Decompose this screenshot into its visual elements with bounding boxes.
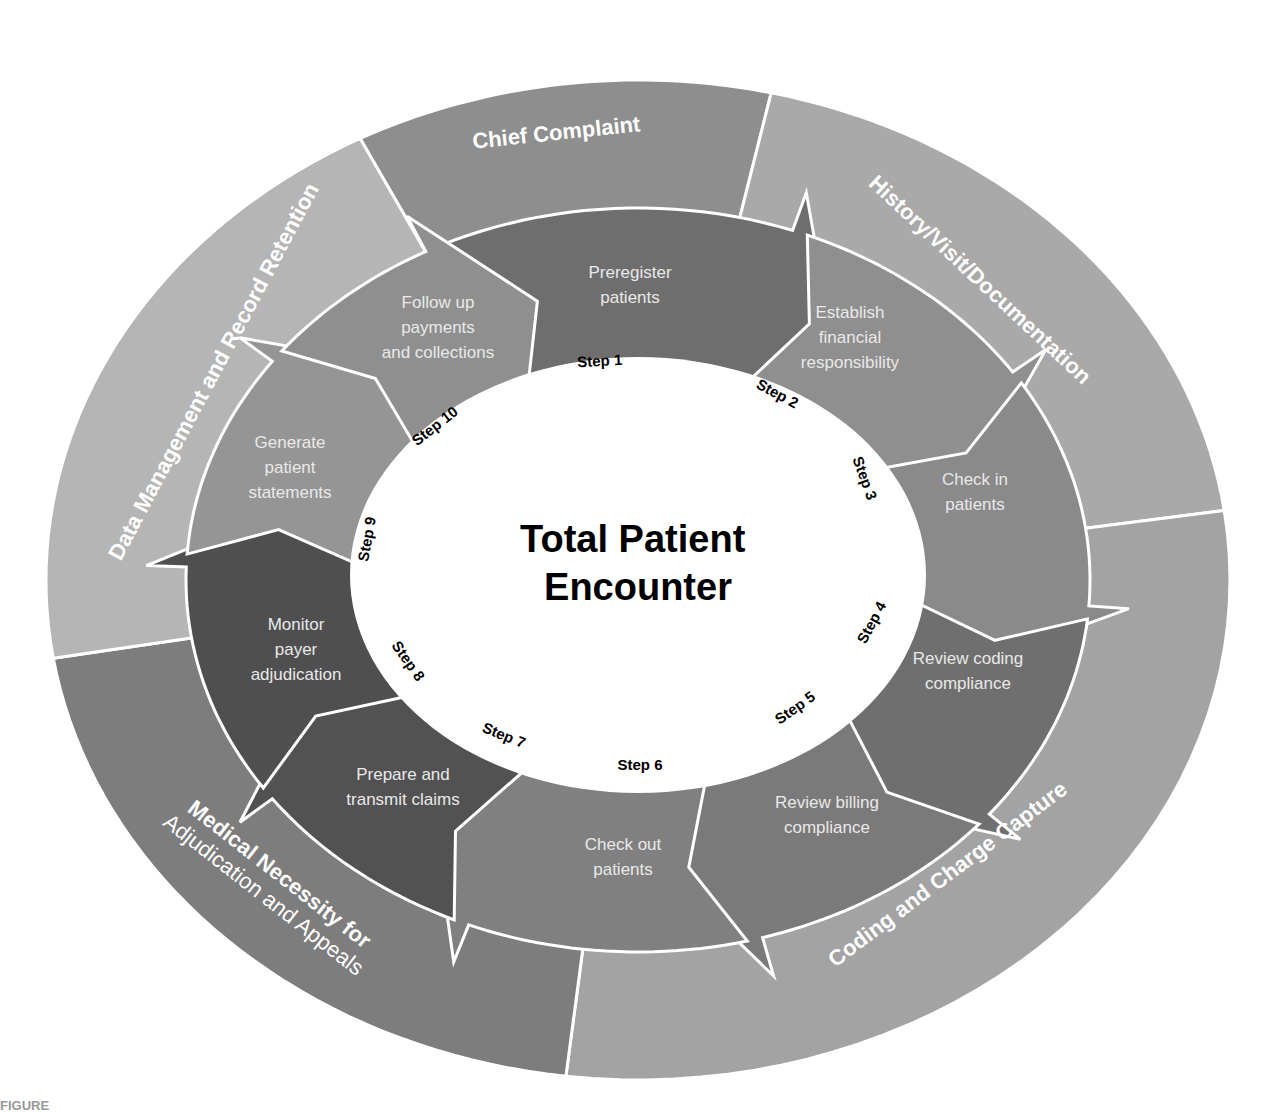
total-patient-encounter-diagram: Chief ComplaintHistory/Visit/Documentati… bbox=[0, 0, 1276, 1112]
figure-caption-label: FIGURE bbox=[0, 1098, 49, 1112]
step-1-number: Step 1 bbox=[577, 351, 623, 370]
step-6-number: Step 6 bbox=[617, 756, 662, 773]
center-title-line-2: Encounter bbox=[544, 566, 732, 608]
center-title-line-1: Total Patient bbox=[520, 518, 746, 560]
